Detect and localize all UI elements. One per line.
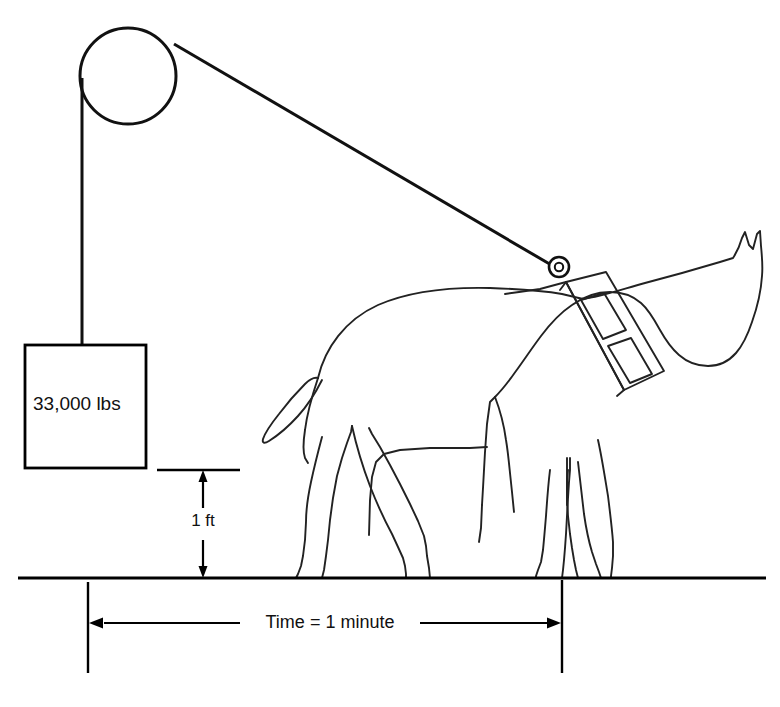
horse-chest-line (495, 397, 514, 512)
horse-front-leg-near (567, 462, 601, 578)
horse-tail (263, 378, 322, 443)
harness-slot-lower (608, 338, 652, 383)
harness-ring-hole (555, 263, 563, 271)
height-arrow-down-head (199, 566, 208, 578)
time-arrow-left-head (89, 618, 103, 629)
weight-box-label: 33,000 lbs (33, 393, 121, 414)
height-dimension-group: 1 ft (157, 470, 240, 578)
horse-leg-crease-mid (479, 505, 482, 542)
horse-body-neck-head-outline (318, 231, 762, 505)
pulley-assembly (80, 28, 176, 124)
pulley-wheel (80, 28, 176, 124)
weight-box-group: 33,000 lbs (25, 345, 146, 468)
horse-front-leg-outer (598, 440, 613, 578)
time-dimension-group: Time = 1 minute (88, 580, 562, 673)
height-arrow-up-head (199, 470, 208, 482)
harness-slot-upper (581, 293, 626, 339)
rope-diagonal-segment (174, 44, 553, 266)
time-arrow-right-head (547, 618, 561, 629)
time-dimension-label: Time = 1 minute (266, 612, 395, 632)
height-dimension-label: 1 ft (191, 511, 215, 530)
horse-figure (263, 231, 763, 578)
horsepower-diagram: 33,000 lbs (0, 0, 780, 707)
horse-front-leg-far (536, 458, 570, 578)
diagram-canvas: 33,000 lbs (0, 0, 780, 707)
